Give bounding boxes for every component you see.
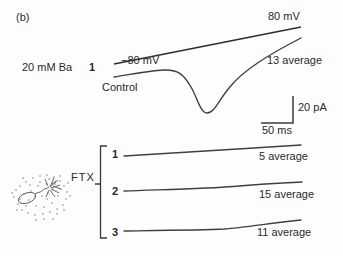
figure-panel-b: (b) 20 mM Ba 1 −80 mV Control 80 mV 13 a… [0, 0, 343, 256]
control-current-trace [114, 38, 301, 113]
voltage-end-label: 80 mV [268, 11, 300, 22]
panel-label: (b) [16, 12, 29, 23]
ftx-trace-1-average: 5 average [259, 151, 308, 162]
top-trace-number: 1 [89, 62, 95, 73]
time-scale-label: 50 ms [262, 125, 292, 136]
spider-stipple-dots [11, 174, 70, 220]
condition-label: 20 mM Ba [22, 62, 72, 73]
funnel-web-spider-sketch [17, 178, 61, 206]
ftx-trace-1-number: 1 [112, 149, 118, 160]
voltage-start-label: −80 mV [121, 55, 159, 66]
control-label: Control [102, 82, 137, 93]
ftx-label: FTX [71, 172, 95, 183]
scale-bars [261, 96, 293, 123]
ftx-trace-2-number: 2 [112, 186, 118, 197]
control-average-label: 13 average [267, 55, 322, 66]
ftx-trace-2-average: 15 average [259, 189, 314, 200]
ftx-trace-3-average: 11 average [257, 227, 311, 238]
ftx-bracket [95, 146, 107, 238]
current-scale-label: 20 pA [298, 102, 327, 113]
ftx-trace-3-number: 3 [112, 227, 118, 238]
